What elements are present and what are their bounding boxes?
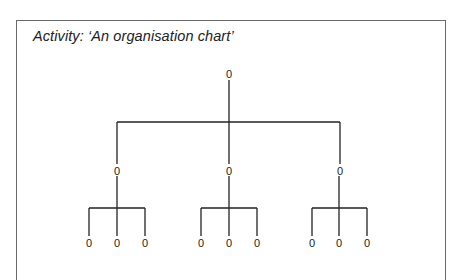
node-leaf-2-2: 0: [226, 237, 232, 249]
node-leaf-1-3: 0: [142, 237, 148, 249]
node-labels: 0 0 0 0 0 0 0 0 0 0 0 0 0: [86, 68, 370, 249]
node-leaf-3-2: 0: [336, 237, 342, 249]
node-root: 0: [226, 68, 232, 80]
node-leaf-3-3: 0: [364, 237, 370, 249]
node-leaf-1-1: 0: [86, 237, 92, 249]
node-leaf-2-3: 0: [254, 237, 260, 249]
node-leaf-3-1: 0: [309, 237, 315, 249]
connector-lines: [89, 80, 367, 236]
node-mid-3: 0: [337, 165, 343, 177]
node-leaf-1-2: 0: [114, 237, 120, 249]
node-mid-2: 0: [226, 165, 232, 177]
node-mid-1: 0: [114, 165, 120, 177]
node-leaf-2-1: 0: [198, 237, 204, 249]
